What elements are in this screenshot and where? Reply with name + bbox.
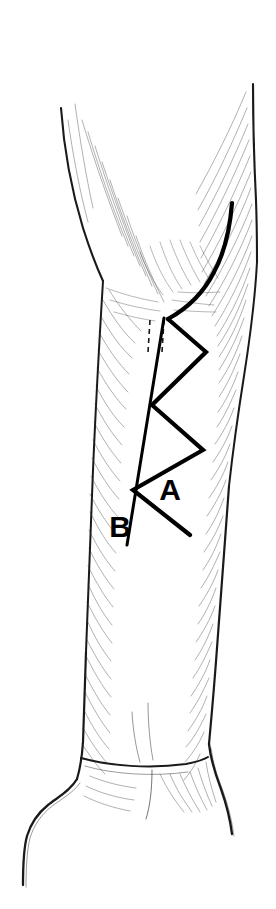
- figure-root: A B: [0, 0, 276, 909]
- label-a: A: [159, 473, 181, 506]
- forearm-incision-illustration: A B: [0, 0, 276, 909]
- label-b: B: [109, 510, 131, 543]
